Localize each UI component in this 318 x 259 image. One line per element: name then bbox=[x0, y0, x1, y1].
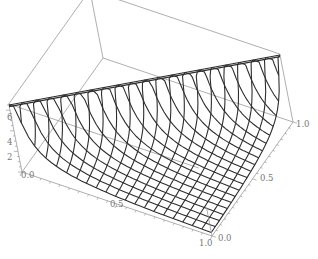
surface-mesh bbox=[9, 55, 280, 233]
z-tick-label: 6 bbox=[7, 112, 12, 122]
axis-ticks bbox=[6, 105, 297, 240]
mesh-line-y bbox=[117, 85, 243, 184]
mesh-line-x bbox=[144, 73, 185, 208]
x-tick-label: 0.0 bbox=[21, 170, 35, 180]
ridge-line bbox=[9, 55, 280, 105]
z-tick-label: 2 bbox=[7, 152, 12, 162]
y-tick-label: 1.0 bbox=[296, 119, 310, 129]
mesh-line-x bbox=[46, 98, 50, 159]
ridge-line bbox=[9, 57, 280, 107]
y-tick-label: 0.5 bbox=[260, 173, 274, 183]
mesh-line-x bbox=[192, 60, 253, 226]
mesh-line-x bbox=[116, 80, 145, 196]
surface-plot: 0.00.51.00.00.51.0246 bbox=[0, 0, 318, 259]
x-tick-label: 0.5 bbox=[110, 199, 124, 209]
y-tick-label: 0.0 bbox=[218, 233, 232, 243]
x-tick-label: 1.0 bbox=[199, 238, 213, 248]
bounding-box-front bbox=[22, 122, 293, 236]
bounding-box-back bbox=[9, 0, 293, 172]
mesh-line-y bbox=[266, 58, 278, 76]
z-tick-label: 4 bbox=[7, 137, 12, 147]
